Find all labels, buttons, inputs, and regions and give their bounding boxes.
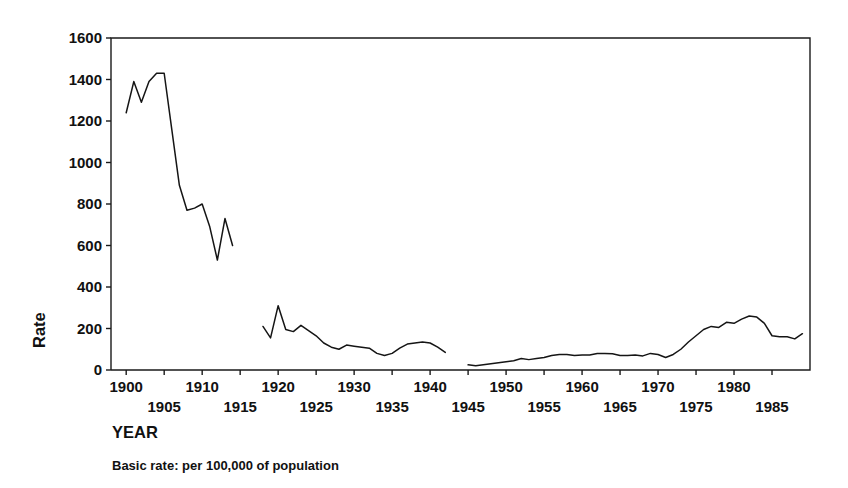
y-tick-label: 600 <box>77 237 102 254</box>
y-tick-label: 1600 <box>69 29 102 46</box>
x-tick-label-upper: 1920 <box>261 378 294 395</box>
x-tick-label-lower: 1955 <box>527 398 560 415</box>
plot-frame <box>111 38 810 370</box>
x-tick-label-lower: 1965 <box>603 398 636 415</box>
x-tick-label-upper: 1930 <box>337 378 370 395</box>
chart-caption: Basic rate: per 100,000 of population <box>112 458 339 473</box>
x-tick-marks <box>126 370 772 375</box>
x-tick-label-lower: 1945 <box>451 398 484 415</box>
x-tick-label-upper: 1910 <box>185 378 218 395</box>
x-axis-title: YEAR <box>112 423 158 441</box>
y-tick-label: 1000 <box>69 154 102 171</box>
x-tick-label-lower: 1975 <box>679 398 712 415</box>
data-series <box>126 73 802 366</box>
y-tick-label: 1200 <box>69 112 102 129</box>
x-tick-label-lower: 1935 <box>375 398 408 415</box>
x-tick-label-upper: 1940 <box>413 378 446 395</box>
y-tick-label: 200 <box>77 320 102 337</box>
x-tick-label-upper: 1900 <box>110 378 143 395</box>
x-tick-label-upper: 1980 <box>717 378 750 395</box>
data-series-line <box>468 316 802 366</box>
y-tick-label: 1400 <box>69 71 102 88</box>
y-axis-title: Rate <box>30 312 48 348</box>
y-tick-marks <box>106 38 111 370</box>
x-tick-label-lower: 1925 <box>299 398 332 415</box>
line-chart: 02004006008001000120014001600 1900191019… <box>0 0 848 488</box>
x-tick-label-lower: 1905 <box>147 398 180 415</box>
y-tick-label: 800 <box>77 195 102 212</box>
y-tick-label: 0 <box>94 361 102 378</box>
y-tick-label: 400 <box>77 278 102 295</box>
data-series-line <box>263 306 445 356</box>
x-tick-label-upper: 1960 <box>565 378 598 395</box>
chart-figure: 02004006008001000120014001600 1900191019… <box>0 0 848 488</box>
x-tick-label-upper: 1950 <box>489 378 522 395</box>
y-tick-labels: 02004006008001000120014001600 <box>69 29 102 378</box>
data-series-line <box>126 73 232 260</box>
x-tick-label-lower: 1915 <box>223 398 256 415</box>
x-tick-labels-lower: 190519151925193519451955196519751985 <box>147 398 788 415</box>
x-tick-labels-upper: 190019101920193019401950196019701980 <box>110 378 751 395</box>
x-tick-label-upper: 1970 <box>641 378 674 395</box>
x-tick-label-lower: 1985 <box>755 398 788 415</box>
